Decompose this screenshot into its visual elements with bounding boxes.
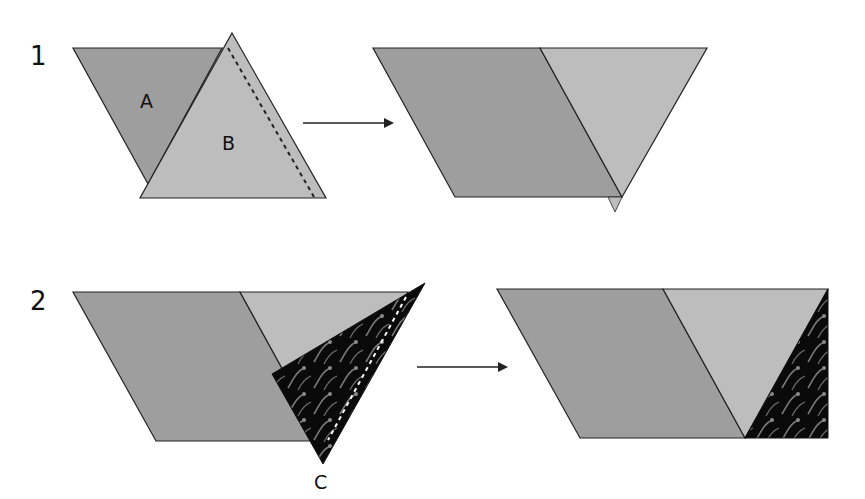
label-b: B — [222, 132, 235, 154]
dog-ear-tip — [608, 197, 622, 212]
arrow-step-2 — [417, 362, 508, 372]
arrow-step-1 — [303, 118, 394, 128]
label-c: C — [314, 471, 327, 493]
step-2-number: 2 — [30, 286, 47, 316]
step-1-number: 1 — [30, 41, 47, 71]
label-a: A — [140, 90, 153, 112]
diagram-canvas: 1 A B 2 C — [0, 0, 865, 499]
